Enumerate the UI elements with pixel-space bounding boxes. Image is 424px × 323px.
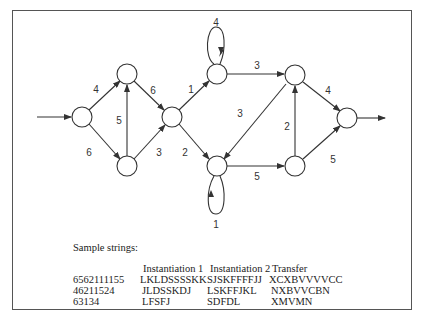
- weight-n7-n9: 4: [325, 85, 331, 96]
- weight-n7-n6: 3: [237, 108, 243, 119]
- row-3-inst1: LFSFJ: [142, 296, 170, 307]
- weight-n4-n5: 1: [188, 84, 194, 95]
- node-n8: [285, 156, 305, 176]
- row-2-transfer: NXBVVCBN: [271, 285, 330, 296]
- row-3-code: 63134: [73, 296, 99, 307]
- row-2-inst2: LSKFFJKL: [207, 285, 257, 296]
- node-n5: [207, 64, 227, 84]
- row-1-transfer: XCXBVVVVCC: [269, 274, 343, 285]
- weight-n5-n7: 3: [254, 60, 260, 71]
- weight-loop-n5: 4: [213, 17, 219, 28]
- sample-strings-title: Sample strings:: [73, 242, 138, 253]
- node-n3: [117, 156, 137, 176]
- header-transfer: Transfer: [272, 263, 307, 274]
- weight-n3-n4: 3: [156, 147, 162, 158]
- edge-n2-n4: [134, 81, 164, 110]
- edge-n1-n3: [89, 124, 120, 159]
- weight-n3-n2: 5: [116, 115, 122, 126]
- weight-n6-n8: 5: [254, 171, 260, 182]
- self-loop-n5: [207, 27, 224, 64]
- node-n9: [337, 108, 357, 128]
- weight-loop-n6: 1: [213, 219, 219, 230]
- row-1-code: 6562111155: [73, 274, 124, 285]
- weight-n1-n2: 4: [93, 84, 99, 95]
- row-3-inst2: SDFDL: [207, 296, 240, 307]
- weight-n2-n4: 6: [150, 85, 156, 96]
- row-3-transfer: XMVMN: [271, 296, 312, 307]
- weight-n1-n3: 6: [86, 147, 92, 158]
- node-n1: [72, 107, 92, 127]
- edge-n4-n5: [179, 81, 209, 110]
- header-instantiation-1: Instantiation 1: [143, 263, 203, 274]
- node-n2: [117, 64, 137, 84]
- node-n6: [207, 156, 227, 176]
- weight-n4-n6: 2: [182, 147, 188, 158]
- node-n7: [285, 65, 305, 85]
- header-instantiation-2: Instantiation 2: [210, 263, 270, 274]
- node-n4: [162, 107, 182, 127]
- weight-n8-n7: 2: [284, 121, 290, 132]
- weight-n8-n9: 5: [330, 154, 336, 165]
- row-2-code: 46211524: [73, 285, 115, 296]
- row-2-inst1: JLDSSKDJ: [142, 285, 191, 296]
- edge-n7-n9: [303, 82, 340, 111]
- edge-n7-n6: [224, 84, 286, 159]
- row-1-inst2: SJSKFFFFJJ: [207, 274, 262, 285]
- row-1-inst1: LKLDSSSSKK: [140, 274, 207, 285]
